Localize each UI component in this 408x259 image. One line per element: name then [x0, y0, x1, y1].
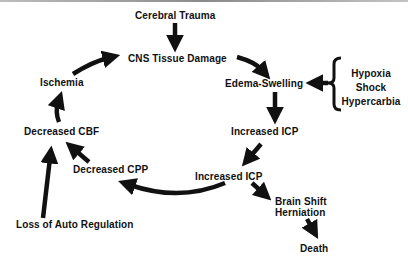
arrow-herniation-to-death	[307, 219, 312, 228]
contributor-hypercarbia: Hypercarbia	[338, 95, 404, 109]
node-herniation: Herniation	[275, 207, 325, 218]
arrow-autoreg-to-cbf	[43, 158, 50, 218]
arrow-icp-to-brain-shift	[252, 183, 262, 192]
node-decreased-cbf: Decreased CBF	[24, 126, 99, 137]
node-brain-shift: Brain Shift	[275, 196, 327, 207]
node-increased-icp-1: Increased ICP	[231, 126, 298, 137]
contributors-group: Hypoxia Shock Hypercarbia	[338, 67, 404, 109]
arrow-icp-to-icp	[250, 144, 261, 157]
node-death: Death	[300, 243, 328, 254]
arrow-icp-to-cpp	[130, 183, 225, 193]
arrow-ischemia-to-cns	[73, 58, 108, 74]
contributor-shock: Shock	[338, 81, 404, 95]
node-increased-icp-2: Increased ICP	[195, 171, 262, 182]
node-loss-of-auto-regulation: Loss of Auto Regulation	[16, 219, 133, 230]
cerebral-trauma-cycle-diagram: Cerebral Trauma CNS Tissue Damage Edema-…	[0, 0, 408, 259]
node-cns-tissue-damage: CNS Tissue Damage	[128, 53, 227, 64]
node-ischemia: Ischemia	[40, 77, 84, 88]
arrow-cbf-to-ischemia	[57, 103, 59, 122]
contributor-hypoxia: Hypoxia	[338, 67, 404, 81]
arrow-cns-to-edema	[237, 57, 262, 70]
node-edema-swelling: Edema-Swelling	[225, 78, 303, 89]
node-decreased-cpp: Decreased CPP	[73, 164, 148, 175]
node-cerebral-trauma: Cerebral Trauma	[135, 10, 215, 21]
arrow-cpp-to-cbf	[75, 150, 89, 162]
